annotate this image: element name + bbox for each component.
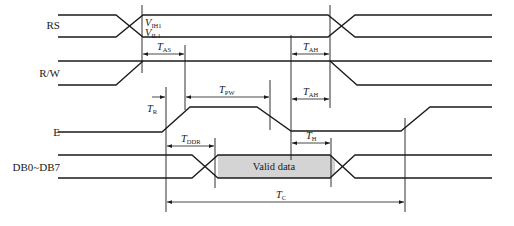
tc-dimension: TC — [167, 189, 404, 202]
svg-text:TDDR: TDDR — [181, 133, 201, 145]
svg-text:TH: TH — [306, 130, 317, 142]
svg-text:TAS: TAS — [157, 41, 172, 53]
signal-label-rs: RS — [47, 19, 60, 31]
svg-text:TC: TC — [276, 189, 286, 201]
th-dimension: TH — [292, 130, 330, 143]
valid-data-label: Valid data — [253, 161, 296, 172]
svg-text:TPW: TPW — [219, 84, 235, 96]
svg-text:TR: TR — [147, 103, 158, 115]
svg-text:TAH: TAH — [303, 41, 319, 53]
signal-label-db: DB0~DB7 — [12, 161, 60, 173]
timing-diagram: RS R/W E DB0~DB7 Valid data VIH1 VIL1 — [0, 0, 514, 226]
svg-text:TAH: TAH — [303, 86, 319, 98]
guide-lines — [142, 5, 405, 212]
tas-dimension: TAS — [143, 41, 184, 54]
tah-dimension-rw: TAH — [292, 86, 329, 99]
tpw-dimension: TPW — [186, 84, 269, 97]
tddr-dimension: TDDR — [167, 133, 214, 146]
rw-waveform — [58, 61, 492, 85]
tr-dimension: TR — [147, 97, 165, 115]
e-waveform — [58, 107, 492, 132]
tah-dimension-rs: TAH — [292, 41, 329, 54]
signal-label-rw: R/W — [39, 67, 60, 79]
db-waveform: Valid data — [58, 155, 492, 178]
rs-waveform — [58, 15, 492, 37]
